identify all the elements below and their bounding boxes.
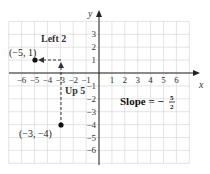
y-tick-label: 1 [92,55,97,65]
y-tick-label: −4 [86,120,96,130]
y-tick-label: 3 [92,29,97,39]
x-tick-label: −5 [30,75,40,85]
point-b [58,122,63,127]
coordinate-plane: x y −6−5−4−3−2−1123456321−1−2−3−4−5−6 (−… [0,0,210,174]
point-b-label: (−3, −4) [19,128,52,140]
y-tick-label: −2 [86,94,96,104]
x-tick-label: 1 [110,75,115,85]
y-axis-arrow-icon [96,10,102,17]
x-axis-arrow-icon [193,70,200,76]
point-a [32,57,37,62]
up-rise-label: Up 5 [65,85,85,96]
x-tick-label: −6 [17,75,27,85]
x-tick-label: 6 [174,75,179,85]
slope-denominator: 2 [170,103,174,111]
y-tick-label: −5 [86,133,96,143]
x-tick-label: 4 [148,75,153,85]
y-tick-label: 2 [92,42,97,52]
y-tick-label: −1 [86,81,96,91]
left-run-label: Left 2 [41,33,66,44]
y-tick-label: −3 [86,107,96,117]
axes: x y [9,8,204,165]
x-tick-label: 3 [135,75,140,85]
x-tick-label: −2 [68,75,78,85]
x-tick-label: 2 [123,75,128,85]
point-a-label: (−5, 1) [9,47,36,59]
x-axis-label: x [198,79,204,90]
x-tick-label: −4 [43,75,53,85]
up-arrowhead-icon [58,62,64,68]
slope-numerator: 5 [170,94,174,102]
y-axis-label: y [87,8,93,19]
left-arrowhead-icon [38,57,44,63]
x-tick-label: 5 [161,75,166,85]
slope-text: Slope = − [120,95,164,107]
y-tick-label: −6 [86,145,96,155]
